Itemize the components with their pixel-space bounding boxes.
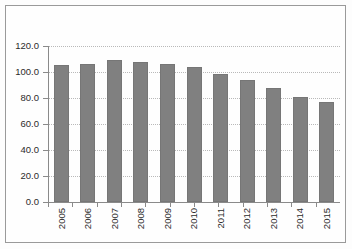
x-axis-tick-label: 2013 bbox=[269, 208, 279, 229]
bar-slot bbox=[128, 46, 155, 202]
x-axis-tick-label: 2005 bbox=[57, 208, 67, 229]
x-tick-group bbox=[48, 202, 340, 207]
x-axis-tick-label: 2012 bbox=[242, 208, 252, 229]
x-axis-tick-label: 2008 bbox=[136, 208, 146, 229]
bar[interactable] bbox=[187, 67, 202, 202]
x-label-slot: 2006 bbox=[75, 208, 102, 246]
bar-chart-figure: 120.0100.080.060.040.020.00.0 2005200620… bbox=[0, 0, 352, 249]
x-tick-slot bbox=[72, 202, 96, 207]
bar-slot bbox=[75, 46, 102, 202]
bar-slot bbox=[101, 46, 128, 202]
bar-slot bbox=[48, 46, 75, 202]
x-label-slot: 2010 bbox=[181, 208, 208, 246]
bar[interactable] bbox=[107, 60, 122, 202]
bar[interactable] bbox=[80, 64, 95, 202]
bar[interactable] bbox=[319, 102, 334, 202]
x-axis-tick bbox=[291, 202, 292, 207]
x-axis-tick-label: 2011 bbox=[216, 208, 226, 228]
y-axis-tick-label: 60.0 bbox=[0, 119, 39, 129]
x-axis-tick bbox=[170, 202, 171, 207]
x-axis-tick-label: 2009 bbox=[163, 208, 173, 229]
y-axis-tick-label: 100.0 bbox=[0, 67, 39, 77]
x-axis-tick bbox=[267, 202, 268, 207]
x-tick-slot bbox=[48, 202, 72, 207]
x-tick-slot bbox=[267, 202, 291, 207]
x-axis-tick bbox=[243, 202, 244, 207]
bar[interactable] bbox=[240, 80, 255, 202]
x-tick-slot bbox=[243, 202, 267, 207]
x-axis-tick bbox=[194, 202, 195, 207]
x-tick-slot bbox=[145, 202, 169, 207]
bar[interactable] bbox=[293, 97, 308, 202]
x-axis-tick-label: 2015 bbox=[322, 208, 332, 229]
y-axis-tick-label: 20.0 bbox=[0, 171, 39, 181]
bar-slot bbox=[181, 46, 208, 202]
x-label-slot: 2013 bbox=[260, 208, 287, 246]
bar[interactable] bbox=[213, 74, 228, 202]
bar[interactable] bbox=[54, 65, 69, 202]
y-axis-tick-label: 40.0 bbox=[0, 145, 39, 155]
bar[interactable] bbox=[266, 88, 281, 202]
x-tick-slot bbox=[194, 202, 218, 207]
x-axis-tick bbox=[145, 202, 146, 207]
x-axis-tick bbox=[48, 202, 49, 207]
x-axis-tick bbox=[218, 202, 219, 207]
bar-slot bbox=[207, 46, 234, 202]
x-label-slot: 2011 bbox=[207, 208, 234, 246]
x-tick-slot bbox=[316, 202, 340, 207]
x-label-slot: 2009 bbox=[154, 208, 181, 246]
x-tick-slot bbox=[97, 202, 121, 207]
bar[interactable] bbox=[133, 62, 148, 202]
bar-slot bbox=[260, 46, 287, 202]
x-axis-tick-label: 2014 bbox=[295, 208, 305, 229]
x-label-slot: 2012 bbox=[234, 208, 261, 246]
x-axis-tick bbox=[97, 202, 98, 207]
bar-slot bbox=[154, 46, 181, 202]
bar-slot bbox=[313, 46, 340, 202]
x-axis-labels: 2005200620072008200920102011201220132014… bbox=[48, 208, 340, 246]
x-label-slot: 2014 bbox=[287, 208, 314, 246]
bar-slot bbox=[287, 46, 314, 202]
y-axis-tick-label: 120.0 bbox=[0, 41, 39, 51]
x-tick-slot bbox=[121, 202, 145, 207]
x-axis-tick bbox=[316, 202, 317, 207]
x-tick-slot bbox=[170, 202, 194, 207]
x-axis-tick bbox=[72, 202, 73, 207]
y-axis-tick-label: 0.0 bbox=[0, 197, 39, 207]
x-axis-tick-label: 2007 bbox=[110, 208, 120, 229]
bar-series bbox=[48, 46, 340, 202]
x-label-slot: 2015 bbox=[313, 208, 340, 246]
x-axis-tick-label: 2010 bbox=[189, 208, 199, 229]
x-tick-slot bbox=[218, 202, 242, 207]
x-tick-slot bbox=[291, 202, 315, 207]
x-label-slot: 2008 bbox=[128, 208, 155, 246]
y-axis-tick-label: 80.0 bbox=[0, 93, 39, 103]
bar-slot bbox=[234, 46, 261, 202]
x-label-slot: 2005 bbox=[48, 208, 75, 246]
bar[interactable] bbox=[160, 64, 175, 202]
x-axis-tick bbox=[121, 202, 122, 207]
x-axis-tick-label: 2006 bbox=[83, 208, 93, 229]
x-label-slot: 2007 bbox=[101, 208, 128, 246]
